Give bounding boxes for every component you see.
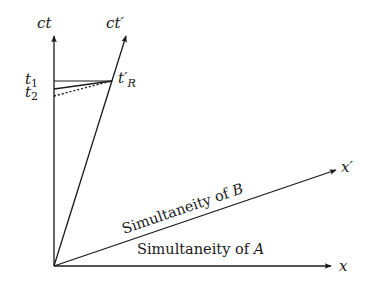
dotted-simultaneity-line [54,81,112,96]
ct-axis-label: ct [37,14,52,32]
t2-subscript: 2 [31,90,38,103]
simultaneity-b-annotation: Simultaneity of B [120,180,246,237]
spacetime-diagram: ct ct′ x x′ t1 t2 t′R Simultaneity of B … [0,0,385,287]
ct-prime-axis [54,36,126,266]
t-prime-r-subscript: R [126,77,135,90]
x-axis-label: x [339,257,348,275]
simultaneity-a-annotation: Simultaneity of A [137,241,264,257]
simultaneity-a-text: Simultaneity of [137,241,254,257]
x-prime-axis-label: x′ [341,158,353,176]
t-prime-r-label: t′R [118,69,136,90]
t1-subscript: 1 [31,77,38,90]
ct-prime-axis-label: ct′ [106,14,124,32]
t2-simultaneity-line [54,81,112,89]
simultaneity-a-var: A [252,241,264,257]
